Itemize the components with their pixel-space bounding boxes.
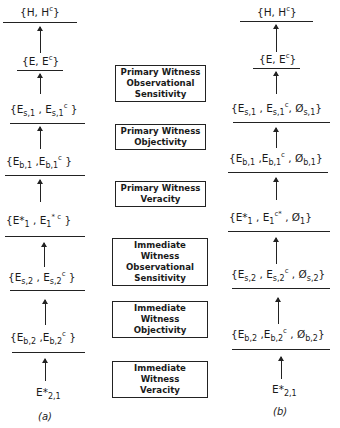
- arrow-icon: [276, 178, 277, 200]
- arrow-icon: [276, 72, 277, 94]
- node-eb2-a: {Eb,2 ,Eb,2c }: [10, 331, 76, 343]
- caption-a: (a): [38, 411, 52, 422]
- node-estar1-b: {E*1 , E1c* , Ø1}: [229, 211, 312, 223]
- node-eb1-b: {Eb,1 ,Eb,1c , Øb,1}: [229, 152, 323, 164]
- level-line-hypothesis-a: [3, 22, 77, 23]
- node-estar21-b: E*2,1: [272, 383, 297, 395]
- arrow-icon: [276, 25, 277, 52]
- node-eb2-b: {Eb,2 ,Eb,2c , Øb,2}: [231, 328, 325, 340]
- level-line-es2-b: [232, 288, 330, 289]
- caption-b: (b): [273, 406, 287, 417]
- level-line-es1-a: [10, 123, 85, 124]
- node-hypothesis-a: {H, Hc}: [20, 6, 60, 18]
- arrow-icon: [40, 180, 41, 202]
- box-primary-objectivity: Primary Witness Objectivity: [115, 124, 206, 150]
- node-event-b: {E, Ec}: [259, 53, 296, 65]
- level-line-eb2-a: [12, 352, 85, 353]
- arrow-icon: [45, 300, 46, 325]
- node-es2-a: {Es,2 , Es,2c }: [8, 271, 76, 283]
- box-immediate-objectivity: Immediate Witness Objectivity: [112, 301, 208, 338]
- node-estar21-a: E*2,1: [36, 386, 61, 398]
- box-primary-observational-sensitivity: Primary Witness Observational Sensitivit…: [115, 65, 206, 102]
- arrow-icon: [44, 243, 45, 267]
- box-primary-veracity: Primary Witness Veracity: [115, 181, 206, 207]
- arrow-icon: [45, 359, 46, 381]
- level-line-eb1-b: [228, 172, 328, 173]
- node-hypothesis-b: {H, Hc}: [257, 6, 297, 18]
- arrow-icon: [278, 298, 279, 324]
- arrow-icon: [40, 27, 41, 53]
- level-line-event-b: [253, 68, 300, 69]
- level-line-es2-a: [10, 290, 85, 291]
- level-line-eb1-a: [5, 175, 85, 176]
- box-immediate-veracity: Immediate Witness Veracity: [112, 361, 208, 398]
- arrow-icon: [276, 238, 277, 264]
- node-eb1-a: {Eb,1 ,Eb,1c }: [6, 155, 72, 167]
- level-line-event-a: [17, 70, 63, 71]
- arrow-icon: [40, 74, 41, 94]
- level-line-hypothesis-b: [240, 21, 313, 22]
- level-line-estar1-a: [5, 236, 85, 237]
- node-es2-b: {Es,2 , Es,2c , Øs,2}: [231, 268, 325, 280]
- node-event-a: {E, Ec}: [22, 55, 59, 67]
- level-line-eb2-b: [232, 349, 330, 350]
- box-immediate-observational-sensitivity: Immediate Witness Observational Sensitiv…: [112, 238, 208, 286]
- node-es1-a: {Es,1 , Es,1c }: [10, 103, 78, 115]
- arrow-icon: [40, 127, 41, 149]
- level-line-estar1-b: [228, 231, 330, 232]
- node-estar1-a: {E*1 , E1* c }: [6, 214, 71, 226]
- arrow-icon: [281, 357, 282, 379]
- arrow-icon: [276, 128, 277, 148]
- level-line-es1-b: [233, 122, 330, 123]
- node-es1-b: {Es,1 , Es,1c, Øs,1}: [231, 102, 322, 114]
